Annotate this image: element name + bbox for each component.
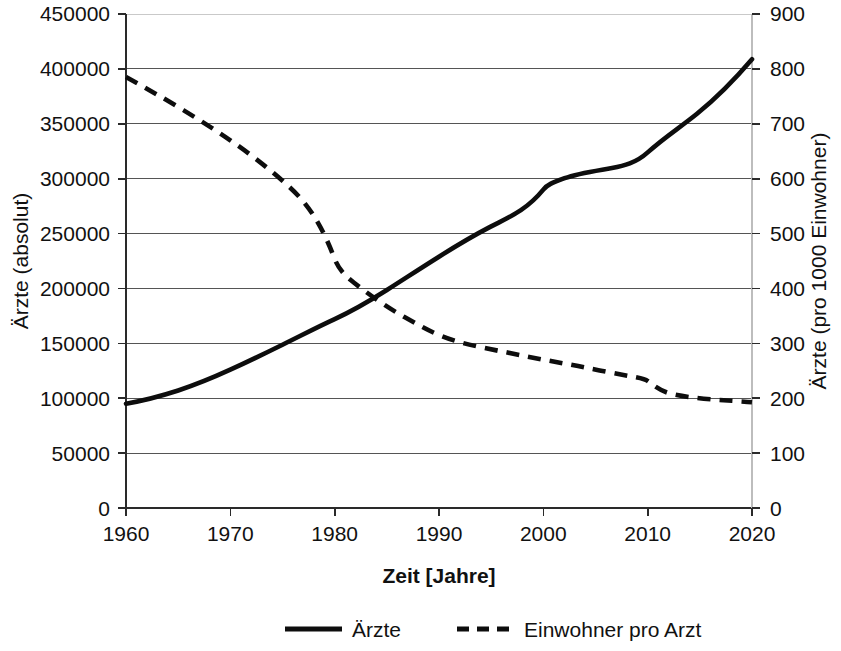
x-axis-ticks <box>126 508 752 516</box>
legend-label-aerzte: Ärzte <box>352 618 401 641</box>
yticklabel-450000: 450000 <box>40 2 110 25</box>
y-axis-left-ticklabels: 450000 400000 350000 300000 250000 20000… <box>40 2 110 520</box>
y2ticklabel-100: 100 <box>770 442 805 465</box>
legend-label-einwohner-pro-arzt: Einwohner pro Arzt <box>524 618 702 641</box>
y2ticklabel-500: 500 <box>770 222 805 245</box>
xticklabel-2000: 2000 <box>520 522 567 545</box>
y2ticklabel-200: 200 <box>770 387 805 410</box>
yticklabel-350000: 350000 <box>40 112 110 135</box>
yticklabel-250000: 250000 <box>40 222 110 245</box>
yticklabel-50000: 50000 <box>52 442 110 465</box>
y2ticklabel-800: 800 <box>770 57 805 80</box>
xticklabel-1980: 1980 <box>311 522 358 545</box>
y-axis-left-ticks <box>118 14 126 508</box>
yticklabel-400000: 400000 <box>40 57 110 80</box>
y2ticklabel-300: 300 <box>770 332 805 355</box>
yticklabel-200000: 200000 <box>40 277 110 300</box>
yticklabel-300000: 300000 <box>40 167 110 190</box>
xticklabel-1990: 1990 <box>416 522 463 545</box>
x-axis-ticklabels: 1960 1970 1980 1990 2000 2010 2020 <box>103 522 776 545</box>
xticklabel-2020: 2020 <box>729 522 776 545</box>
y-axis-right-ticks <box>752 14 760 508</box>
y2ticklabel-900: 900 <box>770 2 805 25</box>
chart-legend: Ärzte Einwohner pro Arzt <box>285 618 702 641</box>
yticklabel-100000: 100000 <box>40 387 110 410</box>
xticklabel-1960: 1960 <box>103 522 150 545</box>
x-axis-title: Zeit [Jahre] <box>382 564 495 587</box>
y2ticklabel-600: 600 <box>770 167 805 190</box>
yticklabel-0: 0 <box>98 497 110 520</box>
y2ticklabel-400: 400 <box>770 277 805 300</box>
y-axis-left-title: Ärzte (absolut) <box>9 193 32 330</box>
chart-figure: 450000 400000 350000 300000 250000 20000… <box>0 0 841 651</box>
chart-canvas: 450000 400000 350000 300000 250000 20000… <box>0 0 841 651</box>
y-axis-right-title: Ärzte (pro 1000 Einwohner) <box>807 133 830 390</box>
plot-area-background <box>126 14 752 508</box>
xticklabel-2010: 2010 <box>624 522 671 545</box>
y2ticklabel-700: 700 <box>770 112 805 135</box>
y2ticklabel-0: 0 <box>770 497 782 520</box>
xticklabel-1970: 1970 <box>207 522 254 545</box>
y-axis-right-ticklabels: 900 800 700 600 500 400 300 200 100 0 <box>770 2 805 520</box>
yticklabel-150000: 150000 <box>40 332 110 355</box>
